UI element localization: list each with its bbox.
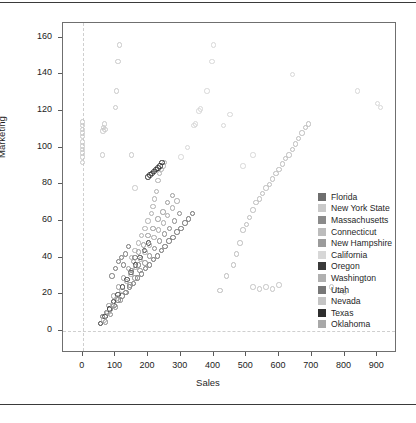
data-point bbox=[293, 141, 298, 146]
data-point bbox=[80, 160, 85, 165]
legend-item-label: Massachusetts bbox=[331, 215, 388, 225]
data-point bbox=[136, 240, 141, 245]
data-point bbox=[154, 189, 159, 194]
data-point bbox=[355, 88, 360, 93]
y-tick-mark bbox=[58, 330, 62, 331]
page-rule-bottom bbox=[0, 404, 416, 405]
data-point bbox=[224, 273, 229, 278]
data-point bbox=[240, 227, 245, 232]
legend-swatch-icon bbox=[318, 193, 326, 201]
legend-item-connecticut[interactable]: Connecticut bbox=[318, 226, 410, 238]
legend-swatch-icon bbox=[318, 274, 326, 282]
x-tick-mark bbox=[245, 352, 246, 356]
data-point bbox=[170, 205, 175, 210]
data-point bbox=[177, 211, 182, 216]
data-point bbox=[244, 222, 249, 227]
data-point bbox=[155, 178, 160, 183]
data-point bbox=[147, 253, 152, 258]
data-point bbox=[162, 244, 167, 249]
x-tick-mark bbox=[278, 352, 279, 356]
data-point bbox=[178, 154, 183, 159]
x-tick-mark bbox=[344, 352, 345, 356]
data-point bbox=[147, 242, 152, 247]
y-tick-mark bbox=[58, 73, 62, 74]
y-tick-label: 0 bbox=[22, 324, 52, 334]
legend-item-label: New Hampshire bbox=[331, 238, 392, 248]
data-point bbox=[132, 185, 137, 190]
data-point bbox=[378, 105, 383, 110]
data-point bbox=[101, 317, 106, 322]
data-point bbox=[142, 226, 147, 231]
data-point bbox=[139, 233, 144, 238]
data-point bbox=[267, 182, 272, 187]
legend-item-nevada[interactable]: Nevada bbox=[318, 295, 410, 307]
legend-item-massachusetts[interactable]: Massachusetts bbox=[318, 214, 410, 226]
legend-swatch-icon bbox=[318, 228, 326, 236]
y-tick-mark bbox=[58, 147, 62, 148]
data-point bbox=[250, 152, 255, 157]
legend-item-label: Oklahoma bbox=[331, 319, 370, 329]
data-point bbox=[270, 286, 275, 291]
legend-item-florida[interactable]: Florida bbox=[318, 191, 410, 203]
y-tick-label: 160 bbox=[22, 31, 52, 41]
data-point bbox=[170, 193, 175, 198]
data-point bbox=[126, 244, 131, 249]
data-point bbox=[113, 105, 118, 110]
y-tick-label: 40 bbox=[22, 251, 52, 261]
data-point bbox=[221, 123, 226, 128]
y-tick-mark bbox=[58, 183, 62, 184]
y-axis-title: Marketing bbox=[0, 116, 7, 158]
data-point bbox=[152, 196, 157, 201]
data-point bbox=[159, 160, 164, 165]
legend-item-new-york-state[interactable]: New York State bbox=[318, 203, 410, 215]
y-tick-label: 20 bbox=[22, 287, 52, 297]
data-point bbox=[211, 42, 216, 47]
legend-item-label: Florida bbox=[331, 192, 357, 202]
data-point bbox=[129, 152, 134, 157]
data-point bbox=[145, 218, 150, 223]
legend-item-label: Texas bbox=[331, 308, 353, 318]
y-tick-mark bbox=[58, 37, 62, 38]
data-point bbox=[290, 147, 295, 152]
x-tick-label: 900 bbox=[356, 360, 396, 370]
legend-item-new-hampshire[interactable]: New Hampshire bbox=[318, 237, 410, 249]
data-point bbox=[80, 119, 85, 124]
data-point bbox=[109, 273, 114, 278]
data-point bbox=[117, 42, 122, 47]
legend-item-oklahoma[interactable]: Oklahoma bbox=[318, 319, 410, 331]
data-point bbox=[250, 284, 255, 289]
data-point bbox=[121, 262, 126, 267]
data-point bbox=[150, 204, 155, 209]
y-tick-label: 100 bbox=[22, 141, 52, 151]
legend-item-california[interactable]: California bbox=[318, 249, 410, 261]
legend-item-texas[interactable]: Texas bbox=[318, 307, 410, 319]
data-point bbox=[178, 226, 183, 231]
y-tick-mark bbox=[58, 220, 62, 221]
data-point bbox=[165, 200, 170, 205]
x-tick-mark bbox=[213, 352, 214, 356]
y-tick-mark bbox=[58, 293, 62, 294]
data-point bbox=[100, 152, 105, 157]
legend-item-utah[interactable]: Utah bbox=[318, 284, 410, 296]
data-point bbox=[276, 282, 281, 287]
data-point bbox=[257, 286, 262, 291]
data-point bbox=[150, 226, 155, 231]
data-point bbox=[142, 260, 147, 265]
data-point bbox=[149, 211, 154, 216]
legend-swatch-icon bbox=[318, 320, 326, 328]
chart-legend: FloridaNew York StateMassachusettsConnec… bbox=[318, 191, 410, 330]
data-point bbox=[186, 216, 191, 221]
x-axis-title: Sales bbox=[0, 377, 416, 388]
data-point bbox=[185, 145, 190, 150]
legend-item-label: Connecticut bbox=[331, 227, 376, 237]
data-point bbox=[257, 196, 262, 201]
data-point bbox=[204, 88, 209, 93]
data-point bbox=[174, 198, 179, 203]
data-point bbox=[137, 268, 142, 273]
data-point bbox=[152, 246, 157, 251]
legend-item-label: California bbox=[331, 250, 367, 260]
legend-item-oregon[interactable]: Oregon bbox=[318, 261, 410, 273]
legend-item-label: Utah bbox=[331, 285, 349, 295]
y-tick-label: 140 bbox=[22, 67, 52, 77]
legend-item-washington[interactable]: Washington bbox=[318, 272, 410, 284]
